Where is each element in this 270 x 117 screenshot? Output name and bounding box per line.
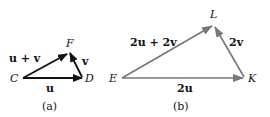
label-v: v <box>81 55 89 68</box>
label-2u: 2u <box>177 82 193 95</box>
point-c-label: C <box>10 72 19 85</box>
figure-b: E K L 2u + 2v 2v 2u (b) <box>108 8 257 113</box>
vector-2u-plus-2v-arrow <box>122 26 212 78</box>
point-d-label: D <box>84 72 94 85</box>
vector-v-arrow <box>70 53 82 77</box>
figure-a: C D F u + v v u (a) <box>9 37 94 113</box>
label-2v: 2v <box>229 36 244 49</box>
vector-addition-diagram: C D F u + v v u (a) E K L 2u + 2v 2v 2u … <box>0 0 270 117</box>
point-l-label: L <box>209 8 217 21</box>
label-u-plus-v: u + v <box>9 52 41 65</box>
vector-2v-arrow <box>215 27 244 77</box>
label-u: u <box>46 82 54 95</box>
point-f-label: F <box>65 37 74 50</box>
label-2u-plus-2v: 2u + 2v <box>130 36 177 49</box>
point-e-label: E <box>108 72 117 85</box>
caption-b: (b) <box>173 100 189 113</box>
caption-a: (a) <box>42 100 57 113</box>
point-k-label: K <box>247 72 257 85</box>
